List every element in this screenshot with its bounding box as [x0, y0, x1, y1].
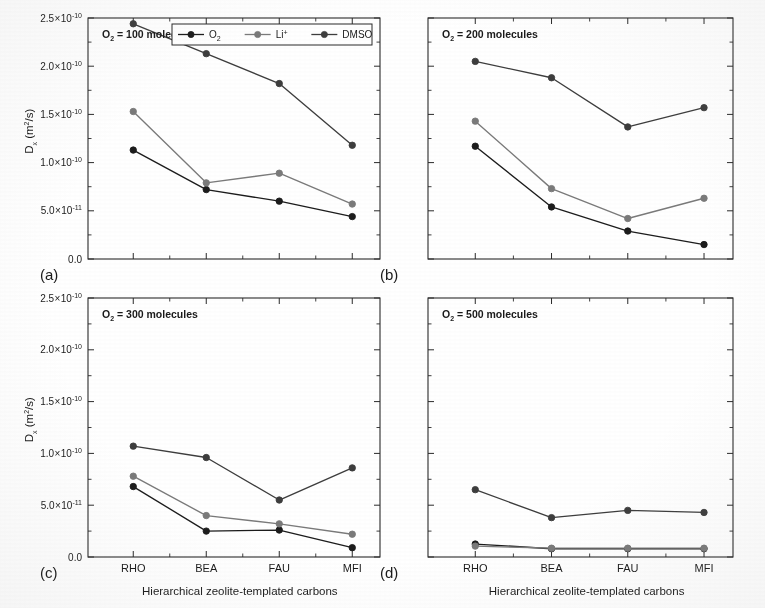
series-line-O2 [133, 150, 352, 217]
data-point-Li+-MFI [701, 195, 707, 201]
y-tick-label: 1.5×10-10 [40, 108, 82, 120]
data-point-DMSO-RHO [130, 443, 136, 449]
y-tick-label: 0.0 [68, 254, 82, 265]
data-point-DMSO-FAU [276, 497, 282, 503]
y-axis-title: Dx (m2/s) [23, 397, 38, 442]
data-point-Li+-FAU [625, 215, 631, 221]
legend-label-DMSO: DMSO [342, 29, 372, 40]
y-tick-label: 1.5×10-10 [40, 395, 82, 407]
series-line-DMSO [475, 61, 704, 127]
series-line-O2 [475, 146, 704, 244]
x-tick-label: FAU [617, 562, 638, 574]
series-line-Li+ [475, 121, 704, 218]
y-tick-label: 1.0×10-10 [40, 156, 82, 168]
legend-marker-Li [255, 31, 261, 37]
series-line-DMSO [475, 490, 704, 518]
y-tick-label: 2.5×10-10 [40, 292, 82, 304]
y-tick-label: 2.0×10-10 [40, 60, 82, 72]
data-point-DMSO-MFI [349, 142, 355, 148]
y-tick-label: 1.0×10-10 [40, 447, 82, 459]
panel-annotation: O2 = 200 molecules [442, 28, 538, 42]
panel-tag-d: (d) [380, 564, 398, 581]
x-tick-label: BEA [195, 562, 218, 574]
panel-c: 0.05.0×10-111.0×10-101.5×10-102.0×10-102… [23, 292, 380, 597]
panel-tag-c: (c) [40, 564, 58, 581]
series-line-O2 [133, 487, 352, 548]
data-point-O2-MFI [701, 241, 707, 247]
data-point-O2-BEA [203, 528, 209, 534]
legend: O2Li+DMSO [172, 24, 373, 45]
data-point-Li+-BEA [548, 185, 554, 191]
multi-panel-line-chart: 0.05.0×10-111.0×10-101.5×10-102.0×10-102… [0, 0, 765, 608]
data-point-Li+-RHO [130, 473, 136, 479]
data-point-DMSO-MFI [701, 104, 707, 110]
data-point-O2-RHO [472, 143, 478, 149]
x-tick-label: MFI [695, 562, 714, 574]
data-point-Li+-BEA [203, 180, 209, 186]
data-point-Li+-FAU [276, 170, 282, 176]
data-point-O2-MFI [349, 213, 355, 219]
data-point-DMSO-FAU [276, 80, 282, 86]
data-point-O2-RHO [130, 147, 136, 153]
y-tick-label: 2.5×10-10 [40, 12, 82, 24]
panel-b: O2 = 200 molecules(b) [380, 18, 733, 283]
data-point-O2-MFI [349, 544, 355, 550]
data-point-Li+-MFI [349, 531, 355, 537]
data-point-DMSO-FAU [625, 124, 631, 130]
data-point-DMSO-MFI [701, 509, 707, 515]
panel-tag-b: (b) [380, 266, 398, 283]
panel-annotation: O2 = 300 molecules [102, 308, 198, 322]
data-point-DMSO-RHO [130, 21, 136, 27]
legend-marker-O [188, 31, 194, 37]
legend-marker-DMSO [321, 31, 327, 37]
data-point-Li+-BEA [203, 512, 209, 518]
data-point-Li+-FAU [625, 545, 631, 551]
y-axis-title: Dx (m2/s) [23, 109, 38, 154]
data-point-DMSO-RHO [472, 486, 478, 492]
y-tick-label: 5.0×10-11 [41, 204, 82, 216]
series-line-Li+ [133, 112, 352, 205]
y-tick-label: 5.0×10-11 [41, 499, 82, 511]
data-point-Li+-RHO [472, 543, 478, 549]
series-line-DMSO [133, 446, 352, 500]
data-point-DMSO-BEA [203, 50, 209, 56]
x-tick-label: FAU [269, 562, 290, 574]
plot-frame [88, 18, 380, 259]
x-tick-label: RHO [121, 562, 146, 574]
series-line-Li+ [133, 476, 352, 534]
x-tick-label: RHO [463, 562, 488, 574]
data-point-Li+-FAU [276, 521, 282, 527]
data-point-DMSO-BEA [203, 454, 209, 460]
data-point-Li+-RHO [130, 108, 136, 114]
data-point-Li+-BEA [548, 545, 554, 551]
data-point-O2-FAU [625, 228, 631, 234]
panel-tag-a: (a) [40, 266, 58, 283]
data-point-O2-BEA [548, 204, 554, 210]
x-tick-label: BEA [541, 562, 564, 574]
data-point-DMSO-BEA [548, 514, 554, 520]
figure-root: 0.05.0×10-111.0×10-101.5×10-102.0×10-102… [0, 0, 765, 608]
data-point-Li+-MFI [701, 545, 707, 551]
data-point-O2-BEA [203, 186, 209, 192]
data-point-DMSO-BEA [548, 75, 554, 81]
data-point-O2-FAU [276, 198, 282, 204]
x-axis-title: Hierarchical zeolite-templated carbons [489, 585, 685, 597]
data-point-Li+-RHO [472, 118, 478, 124]
data-point-DMSO-RHO [472, 58, 478, 64]
series-line-Li+ [475, 546, 704, 548]
data-point-Li+-MFI [349, 201, 355, 207]
x-axis-title: Hierarchical zeolite-templated carbons [142, 585, 338, 597]
y-tick-label: 0.0 [68, 552, 82, 563]
panel-annotation: O2 = 500 molecules [442, 308, 538, 322]
data-point-DMSO-FAU [625, 507, 631, 513]
data-point-O2-FAU [276, 527, 282, 533]
plot-frame [428, 18, 733, 259]
panel-d: RHOBEAFAUMFIO2 = 500 moleculesHierarchic… [380, 298, 733, 597]
data-point-DMSO-MFI [349, 465, 355, 471]
plot-frame [428, 298, 733, 557]
panel-a: 0.05.0×10-111.0×10-101.5×10-102.0×10-102… [23, 12, 380, 283]
x-tick-label: MFI [343, 562, 362, 574]
data-point-O2-RHO [130, 483, 136, 489]
y-tick-label: 2.0×10-10 [40, 343, 82, 355]
